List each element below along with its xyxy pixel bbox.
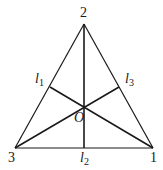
diagram-canvas — [0, 0, 163, 170]
l1-subscript: 1 — [39, 77, 44, 88]
triangle-diagram: 2 3 1 O l1 l3 l2 — [0, 0, 163, 170]
vertex-label-1: 1 — [150, 151, 157, 165]
side-2-3 — [15, 24, 84, 148]
side-2-1 — [84, 24, 153, 148]
center-label-o: O — [74, 111, 84, 125]
foot-label-l2: l2 — [80, 151, 89, 167]
foot-label-l3: l3 — [125, 72, 134, 88]
foot-label-l1: l1 — [35, 72, 44, 88]
vertex-label-2: 2 — [80, 6, 87, 20]
l3-subscript: 3 — [129, 77, 134, 88]
vertex-label-3: 3 — [8, 151, 15, 165]
l2-subscript: 2 — [84, 156, 89, 167]
